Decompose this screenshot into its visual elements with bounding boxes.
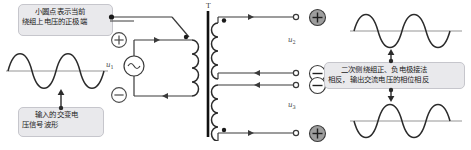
transformer-polarity-diagram: 小圆点表示当前 绕组上电压的正极端 输入的交变电 压信号波形	[0, 0, 471, 150]
secondary-coil-2	[212, 85, 219, 141]
callout-phase-arrow-up	[385, 48, 397, 64]
callout-phase-note-line1: 二次侧绕组正、负电极接法	[328, 65, 461, 75]
output-waveform-u3-chart	[348, 98, 466, 144]
arrow-head	[58, 89, 65, 95]
arrow-anchor-dot	[389, 59, 393, 63]
callout-dot-meaning-line1: 小圆点表示当前	[22, 7, 109, 17]
secondary-coil-1	[212, 23, 219, 79]
callout-dot-meaning: 小圆点表示当前 绕组上电压的正极端	[18, 4, 113, 36]
secondary-1-plus-terminal	[308, 8, 327, 27]
callout-input-wave-line1: 输入的交变电	[22, 110, 100, 120]
primary-polarity-dot	[184, 35, 188, 39]
sec2-current-arrow-bottom	[248, 130, 254, 136]
primary-minus-terminal	[110, 86, 128, 104]
callout-node-dot	[109, 14, 114, 19]
current-arrow-top	[154, 37, 160, 43]
label-u1: u1	[106, 61, 114, 70]
arrow-anchor-dot	[59, 106, 63, 110]
arrow-head	[388, 49, 395, 55]
secondary-1-polarity-dot	[222, 18, 226, 22]
arrow-anchor-dot	[389, 88, 393, 92]
sec2-bottom-binding-post	[293, 130, 298, 135]
callout-input-wave-line2: 压信号波形	[22, 120, 100, 130]
sec1-bottom-binding-post	[293, 70, 298, 75]
sec1-current-arrow-bottom	[254, 70, 260, 76]
label-u2: u2	[288, 36, 296, 45]
sec1-current-arrow-top	[248, 14, 254, 20]
callout-phase-arrow-down	[385, 87, 397, 103]
callout-dot-meaning-line2: 绕组上电压的正极端	[22, 17, 109, 27]
secondary-2-plus-terminal	[308, 124, 327, 143]
transformer-secondary-section	[196, 9, 316, 141]
callout-input-wave-arrow	[55, 88, 67, 110]
callout-phase-note-line2: 相反，输出交流电压的相位相反	[328, 75, 461, 85]
output-waveform-u2-chart	[348, 8, 466, 54]
callout-input-wave: 输入的交变电 压信号波形	[18, 107, 104, 137]
sec2-current-arrow-top	[254, 82, 260, 88]
primary-plus-terminal	[110, 31, 128, 49]
current-arrow-bottom	[162, 93, 168, 99]
secondary-2-polarity-dot	[222, 128, 226, 132]
dot-pointer-wire-diag	[172, 17, 189, 37]
label-u3: u3	[288, 101, 296, 110]
sec2-top-binding-post	[293, 82, 298, 87]
arrow-head	[388, 96, 395, 102]
callout-phase-note: 二次侧绕组正、负电极接法 相反，输出交流电压的相位相反	[324, 62, 465, 89]
sec1-top-binding-post	[293, 14, 298, 19]
